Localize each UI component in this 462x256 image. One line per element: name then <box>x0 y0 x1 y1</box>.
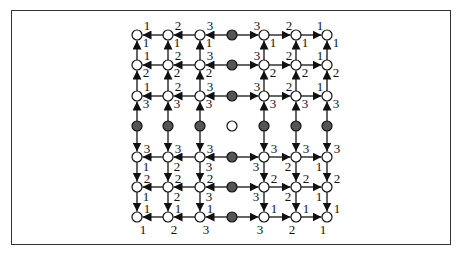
col-distance-label: 2 <box>286 18 293 33</box>
white-node <box>132 91 142 101</box>
col-distance-label: 2 <box>286 79 293 94</box>
white-node <box>195 60 205 70</box>
row-distance-label: 3 <box>303 141 310 156</box>
white-node <box>195 182 205 192</box>
white-node <box>163 60 173 70</box>
white-node <box>163 212 173 222</box>
white-node <box>132 212 142 222</box>
col-distance-label: 1 <box>316 159 323 174</box>
row-distance-label: 2 <box>303 171 310 186</box>
col-distance-label: 3 <box>203 222 210 237</box>
gray-node <box>227 152 237 162</box>
white-node <box>322 91 332 101</box>
gray-node <box>227 60 237 70</box>
row-distance-label: 1 <box>302 35 309 50</box>
col-distance-label: 3 <box>254 48 261 63</box>
row-distance-label: 3 <box>206 96 213 111</box>
col-distance-label: 3 <box>207 79 214 94</box>
col-distance-label: 3 <box>254 79 261 94</box>
row-distance-label: 3 <box>175 141 182 156</box>
white-node <box>132 60 142 70</box>
white-node <box>322 30 332 40</box>
col-distance-label: 2 <box>175 18 182 33</box>
row-distance-label: 2 <box>175 171 182 186</box>
white-node <box>259 60 269 70</box>
row-distance-label: 3 <box>270 96 277 111</box>
white-node <box>259 182 269 192</box>
row-distance-label: 1 <box>270 35 277 50</box>
white-node <box>132 30 142 40</box>
col-distance-label: 2 <box>285 159 292 174</box>
row-distance-label: 2 <box>302 65 309 80</box>
gray-node <box>259 121 269 131</box>
row-distance-label: 3 <box>333 96 340 111</box>
gray-node <box>291 121 301 131</box>
white-node <box>163 152 173 162</box>
white-node <box>291 212 301 222</box>
white-node <box>195 30 205 40</box>
row-distance-label: 1 <box>303 201 310 216</box>
white-node <box>163 182 173 192</box>
white-node <box>195 91 205 101</box>
white-node <box>322 212 332 222</box>
white-node <box>291 152 301 162</box>
row-distance-label: 2 <box>333 65 340 80</box>
gray-node <box>132 121 142 131</box>
col-distance-label: 1 <box>144 18 151 33</box>
col-distance-label: 1 <box>317 79 324 94</box>
row-distance-label: 3 <box>302 96 309 111</box>
white-node <box>291 182 301 192</box>
row-distance-label: 1 <box>334 201 341 216</box>
col-distance-label: 1 <box>140 222 147 237</box>
row-distance-label: 2 <box>207 171 214 186</box>
white-node <box>132 152 142 162</box>
col-distance-label: 2 <box>171 222 178 237</box>
white-node <box>259 91 269 101</box>
gray-node <box>227 212 237 222</box>
row-distance-label: 1 <box>144 201 151 216</box>
row-distance-label: 1 <box>271 201 278 216</box>
white-node <box>322 152 332 162</box>
row-distance-label: 2 <box>206 65 213 80</box>
row-distance-label: 3 <box>207 141 214 156</box>
gray-node <box>227 182 237 192</box>
row-distance-label: 2 <box>334 171 341 186</box>
col-distance-label: 3 <box>207 48 214 63</box>
row-distance-label: 2 <box>270 65 277 80</box>
col-distance-label: 3 <box>257 222 264 237</box>
white-node <box>195 152 205 162</box>
row-distance-label: 3 <box>144 141 151 156</box>
row-distance-label: 3 <box>174 96 181 111</box>
white-node <box>259 152 269 162</box>
white-node <box>163 30 173 40</box>
row-distance-label: 2 <box>174 65 181 80</box>
white-node <box>322 60 332 70</box>
row-distance-label: 1 <box>175 201 182 216</box>
gray-node <box>163 121 173 131</box>
col-distance-label: 3 <box>254 18 261 33</box>
gray-node <box>227 30 237 40</box>
row-distance-label: 2 <box>143 65 150 80</box>
row-distance-label: 1 <box>207 201 214 216</box>
col-distance-label: 1 <box>144 48 151 63</box>
col-distance-label: 2 <box>175 79 182 94</box>
grid-graph-diagram: 1121313121111222323222121323333323133132… <box>0 0 462 256</box>
row-distance-label: 1 <box>333 35 340 50</box>
col-distance-label: 1 <box>317 18 324 33</box>
col-distance-label: 2 <box>289 222 296 237</box>
nodes-layer <box>132 30 332 222</box>
col-distance-label: 3 <box>253 189 260 204</box>
white-node <box>291 30 301 40</box>
white-node <box>291 60 301 70</box>
white-node <box>291 91 301 101</box>
row-distance-label: 2 <box>271 171 278 186</box>
col-distance-label: 2 <box>285 189 292 204</box>
col-distance-label: 1 <box>320 222 327 237</box>
col-distance-label: 2 <box>286 48 293 63</box>
row-distance-label: 2 <box>144 171 151 186</box>
white-node <box>132 182 142 192</box>
white-node <box>195 212 205 222</box>
col-distance-label: 3 <box>253 159 260 174</box>
row-distance-label: 3 <box>143 96 150 111</box>
gray-node <box>322 121 332 131</box>
